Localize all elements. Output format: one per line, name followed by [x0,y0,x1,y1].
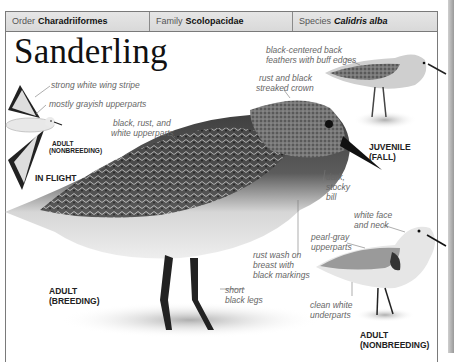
label-pearl-gray-2: upperparts [311,242,352,252]
label-crown-2: streaked crown [256,83,314,93]
label-clean-white-2: underparts [310,310,351,320]
label-upperparts-1: black, rust, and [113,118,171,128]
label-bill-2: stocky [326,182,350,192]
juvenile-illustration [325,54,446,129]
label-legs-2: black legs [225,295,263,305]
caption-flight-plumage: (NONBREEDING) [49,147,102,155]
label-crown-1: rust and black [259,73,312,83]
label-white-face-1: white face [354,210,392,220]
label-white-face-2: and neck [354,220,389,230]
label-grayish-upperparts: mostly grayish upperparts [49,99,146,109]
label-breast-3: black markings [253,270,310,280]
caption-in-flight: IN FLIGHT [35,173,77,183]
label-back-feathers-2: feathers with buff edges [266,55,356,65]
label-pearl-gray-1: pearl-gray [311,232,349,242]
label-breast-2: breast with [253,260,294,270]
caption-juvenile-season: (FALL) [369,152,396,162]
caption-breeding-age: ADULT [49,286,77,296]
caption-juvenile: JUVENILE [369,142,411,152]
label-legs-1: short [225,285,244,295]
label-bill-1: dark, [326,172,345,182]
label-bill-3: bill [326,192,336,202]
label-clean-white-1: clean white [310,300,353,310]
label-upperparts-2: white upperparts [111,128,174,138]
caption-nonbreeding-age: ADULT [360,330,388,340]
label-breast-1: rust wash on [253,250,301,260]
caption-breeding-plumage: (BREEDING) [49,296,100,306]
caption-nonbreeding-plumage: (NONBREEDING) [360,340,429,350]
label-back-feathers-1: black-centered back [266,45,342,55]
label-wing-stripe: strong white wing stripe [51,80,140,90]
